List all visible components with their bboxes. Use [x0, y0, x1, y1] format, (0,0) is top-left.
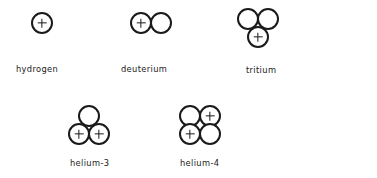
- proton-circle: [247, 26, 269, 48]
- nucleus-hydrogen: [0, 0, 110, 60]
- neutron-circle: [150, 12, 172, 34]
- nucleus-deuterium: [110, 0, 228, 60]
- isotope-label-hydrogen: hydrogen: [16, 64, 58, 74]
- isotope-label-deuterium: deuterium: [121, 64, 167, 74]
- proton-circle: [31, 12, 53, 34]
- isotope-group-helium-3: helium-3: [58, 100, 168, 156]
- neutron-circle: [199, 123, 221, 145]
- isotope-label-helium-3: helium-3: [70, 158, 109, 168]
- isotope-diagram-canvas: hydrogen deuterium tritium helium-3: [0, 0, 377, 178]
- isotope-label-tritium: tritium: [246, 65, 276, 75]
- proton-circle: [130, 12, 152, 34]
- isotope-group-helium-4: helium-4: [168, 100, 278, 156]
- isotope-group-hydrogen: hydrogen: [0, 0, 110, 60]
- nucleus-helium-4: [168, 100, 278, 156]
- isotope-group-tritium: tritium: [228, 0, 338, 62]
- nucleus-helium-3: [58, 100, 168, 156]
- nucleus-tritium: [228, 0, 338, 62]
- isotope-group-deuterium: deuterium: [110, 0, 228, 60]
- proton-circle: [68, 123, 90, 145]
- proton-circle: [88, 123, 110, 145]
- proton-circle: [179, 123, 201, 145]
- isotope-label-helium-4: helium-4: [180, 158, 219, 168]
